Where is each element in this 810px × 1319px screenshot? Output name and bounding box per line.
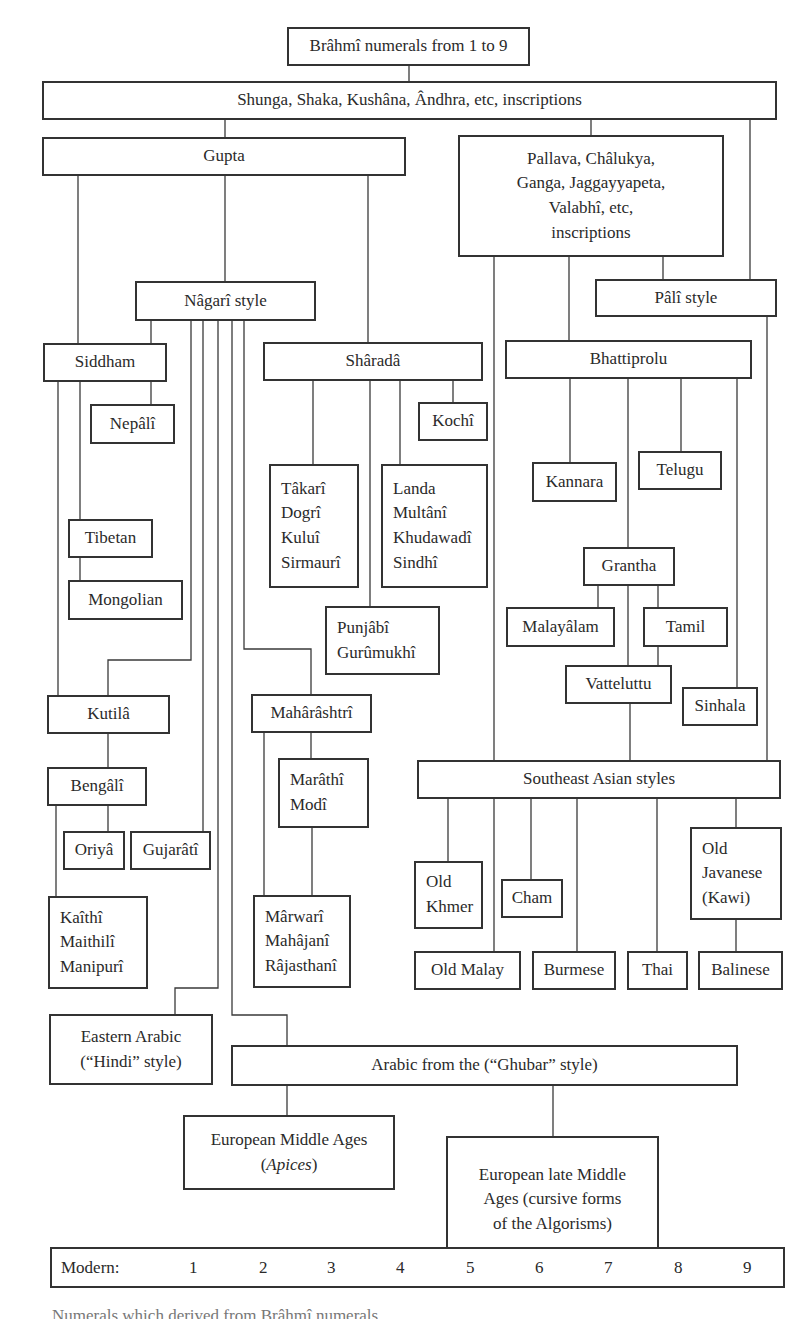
node-kochi: Kochî — [418, 402, 488, 441]
node-maharashtri: Mahârâshtrî — [251, 694, 372, 733]
marwari-line-2: Mahâjanî — [265, 929, 337, 954]
node-gupta: Gupta — [42, 137, 406, 176]
node-old-javanese: Old Javanese (Kawi) — [690, 827, 782, 920]
node-southeast-asian-styles: Southeast Asian styles — [417, 760, 781, 799]
node-kaithi-group: Kaîthî Maithilî Manipurî — [48, 896, 148, 989]
pallava-line-1: Pallava, Châlukya, — [517, 147, 666, 172]
node-nepali: Nepâlî — [90, 404, 175, 444]
marwari-line-1: Mârwarî — [265, 905, 337, 930]
node-thai: Thai — [627, 951, 688, 990]
european-ma-line-2: (Apices) — [211, 1153, 368, 1178]
old-javanese-line-2: Javanese — [702, 861, 762, 886]
node-sharada: Shâradâ — [263, 342, 483, 381]
modern-digit-9: 9 — [743, 1258, 752, 1278]
punjabi-line-2: Gurûmukhî — [337, 641, 415, 666]
punjabi-line-1: Punjâbî — [337, 616, 415, 641]
node-bengali: Bengâlî — [47, 767, 147, 806]
modern-numerals-row: Modern: 1 2 3 4 5 6 7 8 9 — [50, 1247, 785, 1288]
node-european-middle-ages: European Middle Ages (Apices) — [183, 1115, 395, 1190]
pallava-line-2: Ganga, Jaggayyapeta, — [517, 171, 666, 196]
kaithi-line-2: Maithilî — [60, 930, 123, 955]
node-old-malay: Old Malay — [414, 951, 521, 990]
node-kannara: Kannara — [532, 462, 617, 502]
node-pallava-inscriptions: Pallava, Châlukya, Ganga, Jaggayyapeta, … — [458, 135, 724, 257]
node-sinhala: Sinhala — [682, 687, 758, 726]
node-takari-group: Tâkarî Dogrî Kuluî Sirmaurî — [269, 464, 359, 588]
kaithi-line-3: Manipurî — [60, 955, 123, 980]
modern-digit-1: 1 — [189, 1258, 198, 1278]
node-punjabi-group: Punjâbî Gurûmukhî — [325, 606, 440, 675]
modern-digit-6: 6 — [535, 1258, 544, 1278]
node-marathi-group: Marâthî Modî — [278, 758, 369, 828]
numeral-family-tree: Brâhmî numerals from 1 to 9 Shunga, Shak… — [0, 0, 810, 1319]
landa-line-3: Khudawadî — [393, 526, 471, 551]
node-vatteluttu: Vatteluttu — [565, 665, 672, 704]
node-grantha: Grantha — [583, 547, 675, 586]
figure-caption-clipped: Numerals which derived from Brâhmî numer… — [52, 1306, 378, 1319]
marathi-line-2: Modî — [290, 793, 344, 818]
old-khmer-line-2: Khmer — [426, 895, 473, 920]
modern-digit-5: 5 — [466, 1258, 475, 1278]
landa-line-1: Landa — [393, 477, 471, 502]
node-tibetan: Tibetan — [68, 519, 153, 558]
european-late-line-3: of the Algorisms) — [479, 1212, 626, 1237]
takari-line-2: Dogrî — [281, 501, 341, 526]
node-nagari-style: Nâgarî style — [135, 281, 316, 321]
node-european-late-middle-ages: European late Middle Ages (cursive forms… — [446, 1136, 659, 1263]
marwari-line-3: Râjasthanî — [265, 954, 337, 979]
eastern-arabic-line-1: Eastern Arabic — [80, 1025, 182, 1050]
node-burmese: Burmese — [532, 951, 616, 990]
node-tamil: Tamil — [643, 607, 728, 647]
takari-line-1: Tâkarî — [281, 477, 341, 502]
landa-line-4: Sindhî — [393, 551, 471, 576]
pallava-line-4: inscriptions — [517, 221, 666, 246]
modern-digit-4: 4 — [396, 1258, 405, 1278]
takari-line-3: Kuluî — [281, 526, 341, 551]
modern-digit-3: 3 — [327, 1258, 336, 1278]
node-old-khmer: Old Khmer — [414, 861, 483, 929]
node-eastern-arabic: Eastern Arabic (“Hindi” style) — [49, 1014, 213, 1085]
takari-line-4: Sirmaurî — [281, 551, 341, 576]
node-cham: Cham — [501, 879, 563, 918]
old-javanese-line-1: Old — [702, 837, 762, 862]
european-late-line-1: European late Middle — [479, 1163, 626, 1188]
node-pali-style: Pâlî style — [595, 279, 777, 317]
node-siddham: Siddham — [43, 343, 167, 382]
modern-digit-2: 2 — [259, 1258, 268, 1278]
node-landa-group: Landa Multânî Khudawadî Sindhî — [381, 464, 488, 588]
eastern-arabic-line-2: (“Hindi” style) — [80, 1050, 182, 1075]
european-late-line-2: Ages (cursive forms — [479, 1187, 626, 1212]
node-shunga-inscriptions: Shunga, Shaka, Kushâna, Ândhra, etc, ins… — [42, 81, 777, 120]
node-brahmi: Brâhmî numerals from 1 to 9 — [287, 27, 530, 66]
modern-digit-8: 8 — [674, 1258, 683, 1278]
node-marwari-group: Mârwarî Mahâjanî Râjasthanî — [253, 895, 351, 988]
node-mongolian: Mongolian — [68, 580, 183, 620]
node-bhattiprolu: Bhattiprolu — [505, 340, 752, 379]
node-kutila: Kutilâ — [47, 695, 170, 734]
node-ghubar-arabic: Arabic from the (“Ghubar” style) — [231, 1045, 738, 1086]
marathi-line-1: Marâthî — [290, 768, 344, 793]
node-balinese: Balinese — [698, 951, 783, 990]
modern-label: Modern: — [61, 1258, 120, 1278]
node-oriya: Oriyâ — [63, 831, 125, 870]
kaithi-line-1: Kaîthî — [60, 906, 123, 931]
apices-term: Apices — [266, 1155, 311, 1174]
pallava-line-3: Valabhî, etc, — [517, 196, 666, 221]
landa-line-2: Multânî — [393, 501, 471, 526]
node-telugu: Telugu — [638, 451, 722, 490]
node-gujarati: Gujarâtî — [130, 831, 211, 870]
european-ma-line-1: European Middle Ages — [211, 1128, 368, 1153]
old-khmer-line-1: Old — [426, 870, 473, 895]
modern-digit-7: 7 — [604, 1258, 613, 1278]
old-javanese-line-3: (Kawi) — [702, 886, 762, 911]
node-malayalam: Malayâlam — [506, 607, 615, 647]
